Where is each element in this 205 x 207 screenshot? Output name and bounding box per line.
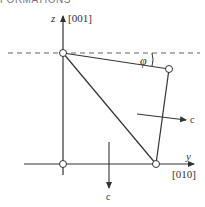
vertex-top-left [60, 50, 67, 57]
force-arrow-right [137, 114, 186, 120]
y-axis-direction: [010] [172, 168, 196, 180]
force-label-down: c [106, 191, 111, 202]
z-axis-direction: [001] [68, 12, 92, 24]
vertex-bottom-left [60, 161, 67, 168]
y-axis-symbol: y [185, 150, 191, 162]
deformation-diagram: z [001] y [010] φ c c [0, 0, 205, 207]
angle-arc [152, 53, 153, 66]
angle-phi-label: φ [140, 54, 147, 68]
force-label-right: c [190, 114, 195, 125]
z-axis-symbol: z [50, 12, 56, 24]
vertex-top-right [166, 66, 173, 73]
vertex-bottom-right [153, 161, 160, 168]
